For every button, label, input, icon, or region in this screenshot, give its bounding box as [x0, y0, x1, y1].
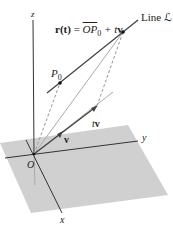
z-axis-label: z	[31, 10, 35, 19]
equation-rest: + t	[101, 23, 117, 35]
equation-label: r(t) = OP0 + tv	[55, 24, 123, 38]
origin-label: O	[27, 160, 34, 170]
p0-subscript: 0	[58, 73, 62, 82]
y-axis-label: y	[142, 133, 146, 143]
p0-label: P0	[51, 68, 62, 82]
equation-eq: =	[71, 23, 83, 35]
equation-vec: v	[117, 23, 123, 35]
p0-letter: P	[51, 67, 58, 79]
line-label: Line ℒ	[141, 12, 172, 23]
origin-point	[33, 153, 36, 156]
tv-v: v	[95, 118, 100, 129]
z-axis	[33, 20, 34, 154]
equation-op: OP	[83, 23, 98, 35]
tv-label: tv	[92, 119, 100, 129]
x-axis-label: x	[60, 215, 64, 225]
v-label: v	[64, 135, 69, 145]
equation-lhs: r(t)	[55, 23, 71, 35]
